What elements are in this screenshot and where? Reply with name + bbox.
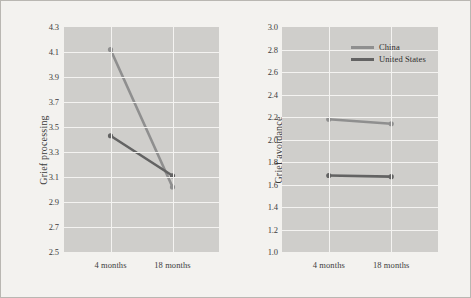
y-axis-tick-label: 2.7	[33, 222, 59, 232]
gridline-horizontal	[64, 177, 219, 178]
legend: China United States	[351, 41, 426, 65]
legend-label-united-states: United States	[379, 54, 426, 64]
gridline-horizontal	[282, 185, 438, 186]
gridline-vertical	[173, 27, 174, 252]
legend-swatch-united-states	[351, 58, 374, 61]
legend-item-china: China	[351, 41, 426, 53]
gridline-horizontal	[282, 117, 438, 118]
gridline-horizontal	[282, 162, 438, 163]
gridline-horizontal	[64, 152, 219, 153]
x-axis-tick-label: 18 months	[154, 260, 191, 270]
gridline-horizontal	[282, 230, 438, 231]
series-line-china	[329, 119, 391, 124]
y-axis-tick-label: 2.0	[252, 135, 278, 145]
y-axis-tick-label: 1.6	[252, 180, 278, 190]
gridline-horizontal	[282, 140, 438, 141]
y-axis-tick-label: 1.4	[252, 202, 278, 212]
y-axis-tick-label: 2.2	[252, 112, 278, 122]
series-line-united-states	[111, 136, 173, 176]
gridline-horizontal	[64, 227, 219, 228]
x-axis-tick-label: 18 months	[373, 260, 410, 270]
y-axis-tick-label: 3.9	[33, 72, 59, 82]
series-lines-left	[64, 27, 219, 252]
y-axis-tick-label: 2.5	[33, 247, 59, 257]
y-axis-ticks-right: 3.02.82.62.42.22.01.81.61.41.21.0	[248, 1, 278, 298]
y-axis-tick-label: 4.1	[33, 47, 59, 57]
gridline-vertical	[329, 27, 330, 252]
y-axis-tick-label: 3.1	[33, 172, 59, 182]
gridline-horizontal	[64, 127, 219, 128]
plot-area-left	[64, 27, 219, 252]
legend-label-china: China	[379, 42, 400, 52]
gridline-vertical	[111, 27, 112, 252]
y-axis-tick-label: 1.2	[252, 225, 278, 235]
legend-item-united-states: United States	[351, 53, 426, 65]
gridline-horizontal	[64, 52, 219, 53]
y-axis-tick-label: 3.5	[33, 122, 59, 132]
y-axis-tick-label: 3.3	[33, 147, 59, 157]
x-axis-tick-label: 4 months	[313, 260, 345, 270]
y-axis-tick-label: 2.4	[252, 90, 278, 100]
gridline-horizontal	[64, 77, 219, 78]
gridline-horizontal	[282, 207, 438, 208]
y-axis-tick-label: 3.7	[33, 97, 59, 107]
series-line-united-states	[329, 176, 391, 177]
figure: Grief processing 4.34.13.93.73.53.33.12.…	[0, 0, 471, 298]
y-axis-tick-label: 4.3	[33, 22, 59, 32]
y-axis-tick-label: 2.6	[252, 67, 278, 77]
chart-panel-grief-processing: Grief processing 4.34.13.93.73.53.33.12.…	[1, 1, 237, 298]
y-axis-ticks-left: 4.34.13.93.73.53.33.12.92.72.5	[29, 1, 59, 298]
y-axis-tick-label: 1.8	[252, 157, 278, 167]
y-axis-tick-label: 3.0	[252, 22, 278, 32]
series-line-china	[111, 50, 173, 188]
x-axis-tick-label: 4 months	[94, 260, 126, 270]
gridline-horizontal	[282, 95, 438, 96]
y-axis-tick-label: 1.0	[252, 247, 278, 257]
legend-swatch-china	[351, 46, 374, 49]
y-axis-tick-label: 2.9	[33, 197, 59, 207]
gridline-horizontal	[64, 102, 219, 103]
gridline-horizontal	[282, 72, 438, 73]
gridline-horizontal	[64, 202, 219, 203]
y-axis-tick-label: 2.8	[252, 45, 278, 55]
